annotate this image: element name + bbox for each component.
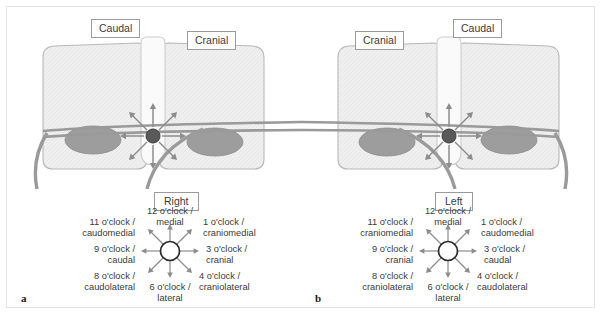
- clock-label-a-9: 9 o'clock / caudal: [35, 244, 135, 265]
- clock-label-b-8: 8 o'clock / craniolateral: [309, 271, 413, 292]
- clock-label-a-8: 8 o'clock / caudolateral: [35, 271, 135, 292]
- orientation-box-left-b: Cranial: [355, 31, 404, 50]
- clock-label-b-3: 3 o'clock / caudal: [484, 244, 525, 265]
- panel-letter-a: a: [21, 292, 27, 304]
- clock-label-a-6: 6 o'clock / lateral: [138, 282, 202, 303]
- anatomy-illustration-b: [301, 9, 595, 189]
- clock-center-circle-b: [439, 242, 458, 261]
- clock-label-b-12: 12 o'clock / medial: [414, 206, 482, 227]
- clock-label-b-6: 6 o'clock / lateral: [416, 282, 480, 303]
- figure-caption-clipped: [28, 320, 573, 333]
- clock-face-diagram-a: 12 o'clock / medial 1 o'clock / craniome…: [7, 193, 301, 309]
- panel-letter-b: b: [315, 292, 321, 304]
- needle-target-point: [146, 129, 160, 143]
- clock-label-a-12: 12 o'clock / medial: [136, 206, 204, 227]
- clock-center-circle-a: [161, 242, 180, 261]
- figure-frame: Caudal Cranial Right 12 o'clock /: [6, 6, 595, 308]
- clock-label-a-11: 11 o'clock / caudomedial: [25, 217, 135, 238]
- figure-panel-a: Caudal Cranial Right 12 o'clock /: [7, 7, 301, 309]
- anatomy-illustration-a: [7, 9, 301, 189]
- orientation-box-left-a: Caudal: [91, 19, 140, 38]
- clock-label-a-4: 4 o'clock / craniolateral: [199, 271, 250, 292]
- clock-face-diagram-b: 12 o'clock / medial 1 o'clock / caudomed…: [301, 193, 595, 309]
- clock-label-a-3: 3 o'clock / cranial: [206, 244, 247, 265]
- clock-label-a-1: 1 o'clock / craniomedial: [203, 217, 256, 238]
- clock-label-b-4: 4 o'clock / caudolateral: [477, 271, 528, 292]
- orientation-box-right-b: Caudal: [453, 19, 502, 38]
- clock-label-b-11: 11 o'clock / craniomedial: [303, 217, 413, 238]
- clock-label-b-1: 1 o'clock / caudomedial: [481, 217, 534, 238]
- figure-panel-b: Cranial Caudal Left 12 o'clock /: [301, 7, 595, 309]
- clock-label-b-9: 9 o'clock / cranial: [313, 244, 413, 265]
- needle-target-point: [442, 129, 456, 143]
- orientation-box-right-a: Cranial: [187, 31, 236, 50]
